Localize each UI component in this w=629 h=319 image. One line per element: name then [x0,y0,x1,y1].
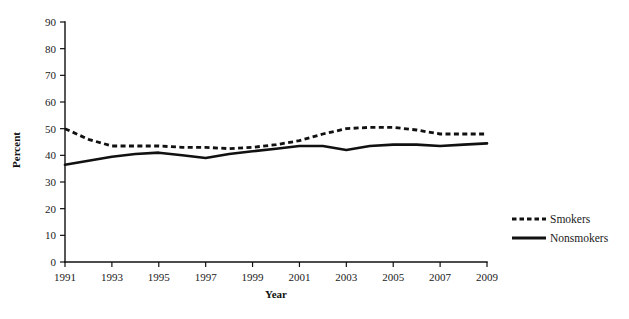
x-axis-ticks: 1991199319951997199920012003200520072009 [54,262,499,283]
x-axis-title: Year [265,288,287,300]
x-tick-label: 1999 [242,271,265,283]
legend-label-smokers: Smokers [550,213,591,225]
y-axis-ticks: 0102030405060708090 [45,16,65,268]
series-line-nonsmokers [65,143,487,164]
x-tick-label: 1997 [195,271,218,283]
x-tick-label: 1995 [148,271,171,283]
y-axis-title: Percent [10,132,22,168]
y-tick-label: 10 [45,229,57,241]
y-tick-label: 80 [45,43,57,55]
x-tick-label: 2005 [382,271,405,283]
y-tick-label: 90 [45,16,57,28]
x-tick-label: 2009 [476,271,499,283]
y-tick-label: 50 [45,123,57,135]
x-tick-label: 2007 [429,271,452,283]
x-tick-label: 1991 [54,271,76,283]
chart-legend: Smokers Nonsmokers [512,213,609,244]
line-chart: 0102030405060708090 19911993199519971999… [0,0,629,319]
y-tick-label: 60 [45,96,57,108]
y-tick-label: 40 [45,149,57,161]
y-tick-label: 20 [45,203,57,215]
y-tick-label: 30 [45,176,57,188]
x-tick-label: 2001 [288,271,310,283]
chart-figure: 0102030405060708090 19911993199519971999… [0,0,629,319]
y-tick-label: 70 [45,69,57,81]
legend-label-nonsmokers: Nonsmokers [550,232,609,244]
y-tick-label: 0 [51,256,57,268]
x-tick-label: 1993 [101,271,124,283]
x-tick-label: 2003 [335,271,358,283]
